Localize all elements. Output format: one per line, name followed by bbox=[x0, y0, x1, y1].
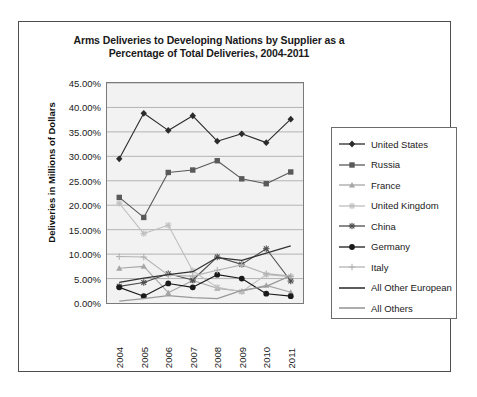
data-point-marker bbox=[117, 195, 122, 200]
data-point-marker bbox=[263, 291, 269, 297]
legend-item-russia[interactable]: Russia bbox=[332, 155, 456, 176]
x-tick-label: 2011 bbox=[286, 348, 297, 368]
chart-legend: United StatesRussiaFranceUnited KingdomC… bbox=[331, 127, 457, 319]
series-line bbox=[119, 161, 291, 218]
data-point-marker bbox=[166, 170, 171, 175]
series-united-states bbox=[116, 110, 294, 162]
x-tick-label: 2010 bbox=[261, 347, 272, 368]
data-point-marker bbox=[239, 130, 245, 137]
data-point-marker bbox=[288, 169, 293, 174]
data-point-marker bbox=[165, 281, 171, 287]
data-point-marker bbox=[116, 200, 122, 206]
legend-item-all-others[interactable]: All Others bbox=[332, 298, 456, 319]
legend-item-italy[interactable]: Italy bbox=[332, 257, 456, 278]
y-tick-label: 5.00% bbox=[43, 273, 101, 284]
legend-key-icon bbox=[338, 302, 366, 314]
x-tick-label: 2004 bbox=[114, 347, 125, 368]
legend-item-united-states[interactable]: United States bbox=[332, 134, 456, 155]
x-tick-label: 2009 bbox=[237, 347, 248, 368]
data-point-marker bbox=[239, 176, 244, 181]
data-point-marker bbox=[239, 276, 245, 282]
chart-frame: Arms Deliveries to Developing Nations by… bbox=[18, 21, 451, 372]
legend-key-icon bbox=[338, 159, 366, 171]
legend-key-icon bbox=[338, 200, 366, 212]
legend-key-icon bbox=[338, 138, 366, 150]
legend-item-label: Italy bbox=[371, 262, 388, 273]
data-point-marker bbox=[116, 284, 122, 290]
data-point-marker bbox=[165, 127, 171, 134]
data-point-marker bbox=[288, 293, 294, 299]
plot-area bbox=[106, 82, 304, 304]
data-point-marker bbox=[141, 215, 146, 220]
data-point-marker bbox=[349, 223, 355, 229]
legend-item-label: China bbox=[371, 221, 396, 232]
legend-key-icon bbox=[338, 241, 366, 253]
legend-item-label: United States bbox=[371, 139, 428, 150]
legend-item-united-kingdom[interactable]: United Kingdom bbox=[332, 196, 456, 217]
data-point-marker bbox=[349, 141, 355, 148]
legend-item-all-other-european[interactable]: All Other European bbox=[332, 278, 456, 299]
y-tick-label: 30.00% bbox=[43, 151, 101, 162]
data-point-marker bbox=[349, 162, 354, 167]
y-tick-label: 40.00% bbox=[43, 102, 101, 113]
data-point-marker bbox=[349, 264, 355, 270]
data-point-marker bbox=[264, 181, 269, 186]
y-tick-label: 10.00% bbox=[43, 249, 101, 260]
series-all-other-european bbox=[119, 246, 291, 283]
x-tick-label: 2006 bbox=[163, 347, 174, 368]
legend-item-label: All Others bbox=[371, 303, 413, 314]
chart-page: Arms Deliveries to Developing Nations by… bbox=[0, 0, 477, 397]
data-point-marker bbox=[263, 246, 269, 252]
legend-item-france[interactable]: France bbox=[332, 175, 456, 196]
x-tick-label: 2008 bbox=[212, 347, 223, 368]
legend-key-icon bbox=[338, 282, 366, 294]
data-point-marker bbox=[349, 203, 355, 209]
y-tick-label: 25.00% bbox=[43, 175, 101, 186]
legend-item-label: United Kingdom bbox=[371, 200, 439, 211]
legend-item-germany[interactable]: Germany bbox=[332, 237, 456, 258]
y-tick-label: 15.00% bbox=[43, 224, 101, 235]
data-point-marker bbox=[141, 230, 147, 236]
y-tick-label: 35.00% bbox=[43, 126, 101, 137]
y-tick-label: 20.00% bbox=[43, 200, 101, 211]
data-point-marker bbox=[215, 158, 220, 163]
series-russia bbox=[117, 158, 294, 220]
series-line bbox=[119, 113, 291, 158]
legend-item-china[interactable]: China bbox=[332, 216, 456, 237]
x-tick-label: 2007 bbox=[188, 347, 199, 368]
y-tick-label: 45.00% bbox=[43, 78, 101, 89]
legend-key-icon bbox=[338, 261, 366, 273]
series-line bbox=[119, 246, 291, 283]
data-point-marker bbox=[165, 222, 171, 228]
data-point-marker bbox=[214, 267, 220, 273]
data-point-marker bbox=[214, 284, 220, 290]
x-tick-label: 2005 bbox=[139, 347, 150, 368]
data-point-marker bbox=[141, 279, 147, 285]
data-point-marker bbox=[141, 110, 147, 117]
legend-key-icon bbox=[338, 179, 366, 191]
series-canvas bbox=[107, 83, 303, 303]
data-point-marker bbox=[190, 167, 195, 172]
legend-item-label: Russia bbox=[371, 159, 400, 170]
legend-item-label: France bbox=[371, 180, 401, 191]
data-point-marker bbox=[190, 284, 196, 290]
y-tick-label: 0.00% bbox=[43, 298, 101, 309]
legend-item-label: Germany bbox=[371, 241, 410, 252]
legend-key-icon bbox=[338, 220, 366, 232]
legend-item-label: All Other European bbox=[371, 282, 452, 293]
data-point-marker bbox=[349, 244, 355, 250]
